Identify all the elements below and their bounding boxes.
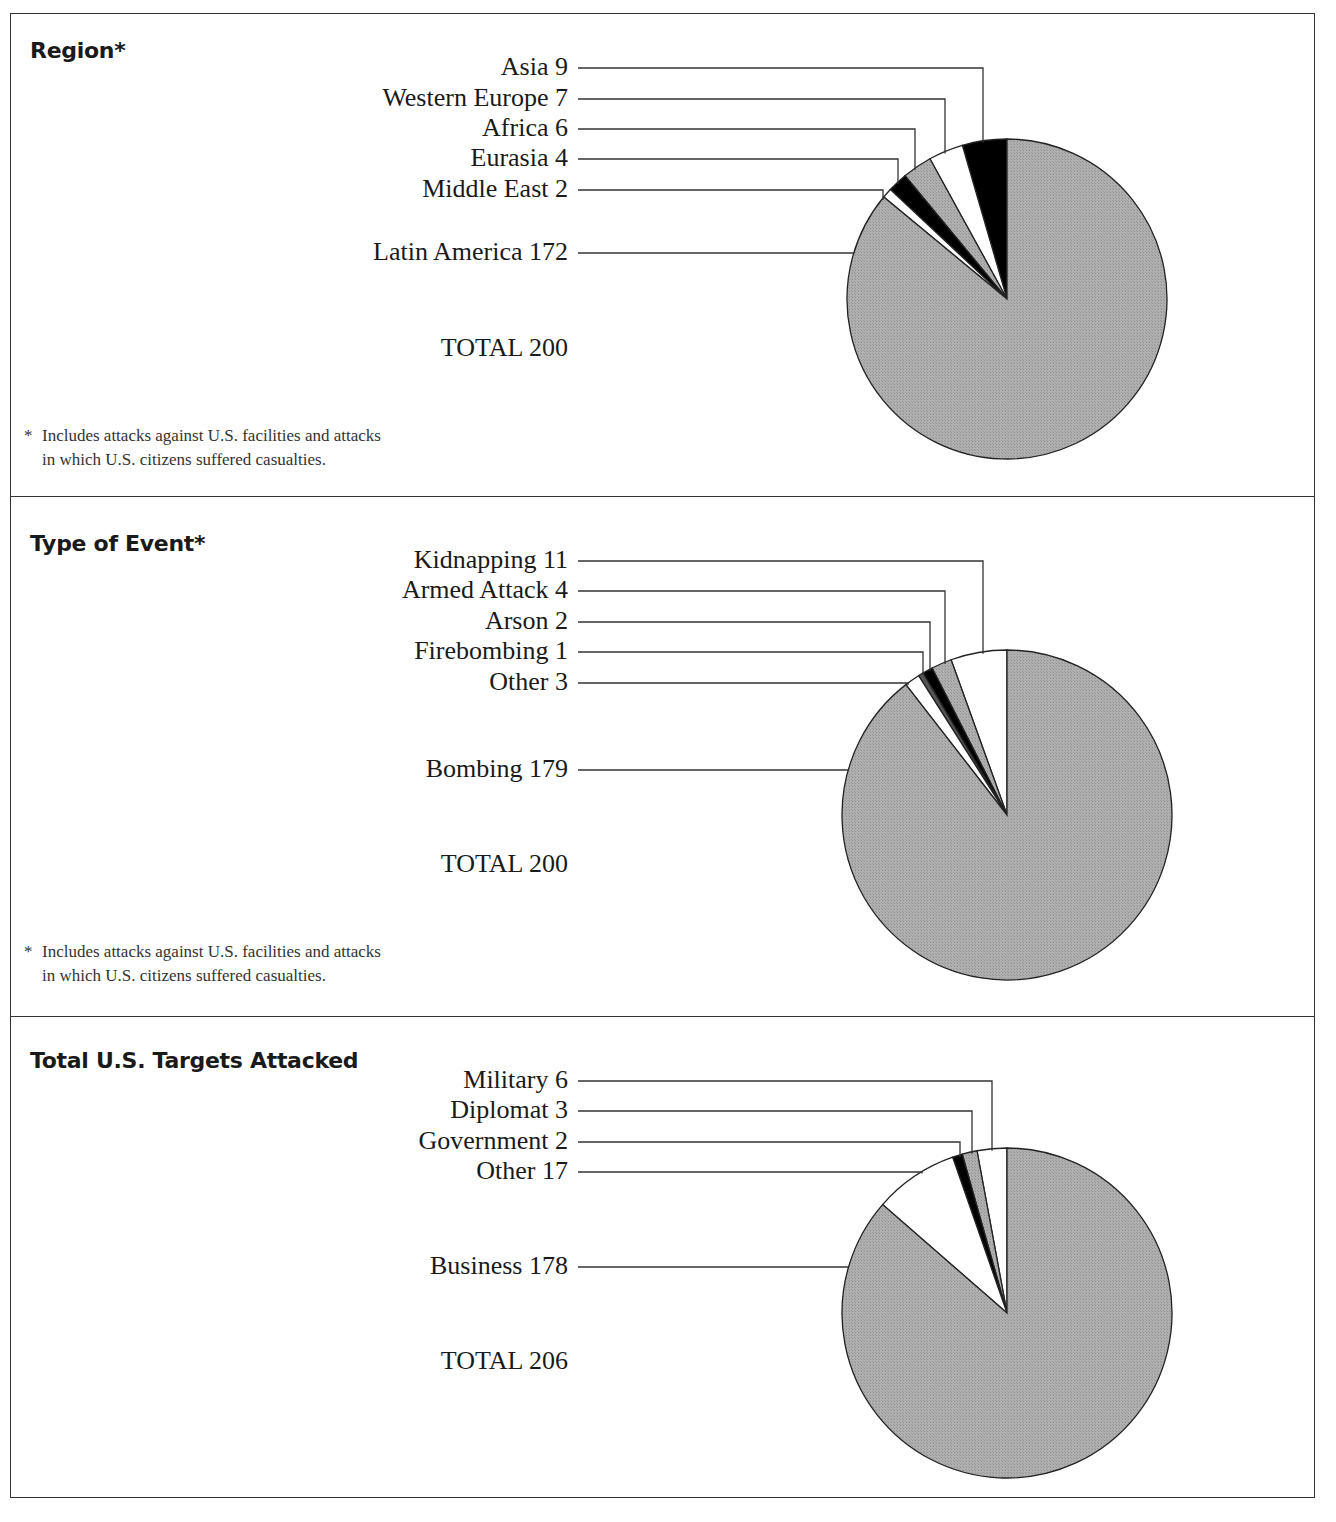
leader-line — [578, 1081, 992, 1151]
leader-line — [578, 1111, 972, 1154]
leader-line — [578, 561, 983, 654]
pie-slice — [842, 650, 1172, 980]
leader-line — [578, 99, 945, 154]
leader-line — [578, 129, 915, 170]
leader-line — [578, 68, 983, 143]
pie-charts — [0, 0, 1336, 1522]
leader-line — [578, 159, 898, 184]
leader-line — [578, 652, 923, 675]
leader-line — [578, 591, 945, 664]
leader-line — [578, 683, 908, 685]
leader-line — [578, 190, 883, 200]
leader-line — [578, 1142, 960, 1157]
leader-line — [578, 622, 930, 671]
leader-line — [578, 1172, 922, 1174]
